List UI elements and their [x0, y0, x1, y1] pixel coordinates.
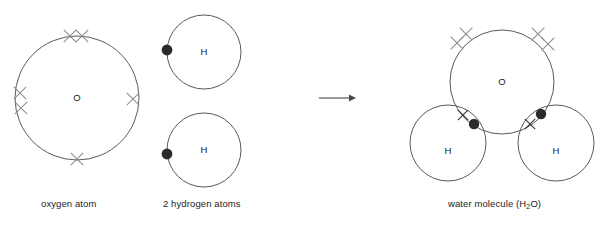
caption-oxygen-atom: oxygen atom: [41, 198, 97, 209]
water-oxygen-symbol-label: O: [498, 76, 505, 87]
water-hydrogen-right-shell-circle: [518, 105, 594, 181]
oxygen-atom-group: O: [14, 30, 139, 165]
diagram-canvas: O H H O H H: [0, 0, 609, 228]
bonded-hydrogen-left-shared-electron-dot: [469, 119, 479, 129]
hydrogen-atoms-group: H H: [162, 15, 241, 187]
hydrogen-top-electron-dot: [162, 45, 173, 56]
caption-water-subscript: 2: [526, 202, 530, 211]
water-molecule-group: O H H: [410, 28, 594, 181]
right-cross-mark: [127, 93, 139, 105]
water-hydrogen-right-symbol-label: H: [553, 145, 560, 156]
water-hydrogen-left-symbol-label: H: [445, 145, 452, 156]
water-hydrogen-left-shell-circle: [410, 105, 486, 181]
caption-water-molecule: water molecule (H2O): [448, 198, 541, 209]
left-lower-cross-mark: [15, 102, 27, 114]
lone-pair-upper-right-cross-2-mark: [542, 38, 555, 51]
electron-mark: [525, 119, 535, 129]
reaction-arrow: [319, 95, 356, 102]
hydrogen-bottom-symbol-label: H: [201, 144, 208, 155]
lone-pair-upper-left-cross-2-mark: [451, 37, 464, 50]
chemistry-bonding-diagram: O H H O H H: [0, 0, 609, 228]
hydrogen-atom-top: H: [162, 15, 241, 89]
bottom-cross-mark: [71, 153, 83, 165]
hydrogen-bottom-electron-dot: [162, 149, 173, 160]
water-shared-electron-pairs: [458, 109, 546, 129]
electron-mark: [458, 110, 468, 120]
water-oxygen-lone-pairs: [451, 28, 555, 51]
caption-water-lead: water molecule (H: [448, 198, 526, 209]
hydrogen-top-symbol-label: H: [201, 46, 208, 57]
hydrogen-atom-bottom: H: [162, 113, 241, 187]
reaction-arrow-head: [349, 95, 356, 102]
oxygen-symbol-label: O: [73, 92, 80, 103]
caption-hydrogen-atoms: 2 hydrogen atoms: [163, 198, 241, 209]
caption-water-tail: O): [530, 198, 541, 209]
bonded-hydrogen-right-shared-electron-dot: [536, 109, 546, 119]
